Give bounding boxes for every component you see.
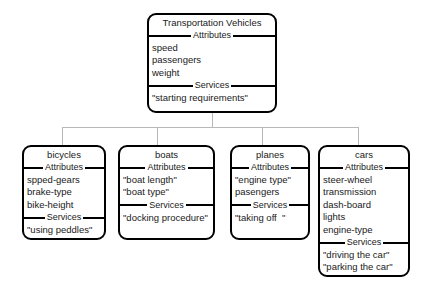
- node-title: boats: [120, 147, 213, 162]
- list-item: "taking off ": [235, 212, 308, 224]
- diagram-canvas: Transportation Vehicles Attributes speed…: [0, 0, 425, 291]
- divider-rule-left: [24, 217, 45, 219]
- node-transportation-vehicles[interactable]: Transportation Vehicles Attributes speed…: [147, 13, 277, 113]
- node-title: planes: [232, 147, 308, 162]
- attributes-list: speed passengers weight: [149, 41, 275, 79]
- connector-root-stem: [212, 113, 213, 128]
- attributes-list: "engine type" pasengers: [232, 173, 308, 199]
- connector-drop-planes: [262, 127, 263, 145]
- list-item: "driving the car": [323, 249, 408, 261]
- list-item: lights: [323, 211, 408, 223]
- attributes-label: Attributes: [191, 30, 233, 41]
- node-bicycles[interactable]: bicycles Attributes spped-gears brake-ty…: [22, 145, 106, 240]
- attributes-list: spped-gears brake-type bike-height: [24, 173, 104, 211]
- divider-rule-left: [24, 167, 43, 169]
- services-divider: Services: [320, 237, 408, 248]
- node-cars[interactable]: cars Attributes steer-wheel transmission…: [318, 145, 410, 277]
- divider-rule-right: [385, 167, 408, 169]
- divider-rule-right: [231, 85, 275, 87]
- list-item: "boat length": [123, 174, 213, 186]
- attributes-label: Attributes: [249, 162, 291, 173]
- services-divider: Services: [232, 200, 308, 211]
- divider-rule-right: [233, 35, 275, 37]
- attributes-divider: Attributes: [149, 30, 275, 41]
- divider-rule-right: [289, 204, 308, 206]
- services-label: Services: [147, 200, 186, 211]
- connector-horizontal-bus: [62, 127, 358, 128]
- attributes-divider: Attributes: [24, 162, 104, 173]
- services-list: "starting requirements": [149, 91, 275, 104]
- list-item: pasengers: [235, 186, 308, 198]
- list-item: "engine type": [235, 174, 308, 186]
- node-title: bicycles: [24, 147, 104, 162]
- list-item: "docking procedure": [123, 212, 213, 224]
- divider-rule-right: [188, 167, 213, 169]
- divider-rule-left: [320, 242, 345, 244]
- services-divider: Services: [149, 80, 275, 91]
- list-item: passengers: [152, 54, 275, 66]
- node-planes[interactable]: planes Attributes "engine type" pasenger…: [230, 145, 310, 240]
- attributes-label: Attributes: [145, 162, 187, 173]
- attributes-list: "boat length" "boat type": [120, 173, 213, 199]
- list-item: "stopping the car": [323, 274, 408, 277]
- divider-rule-left: [320, 167, 343, 169]
- list-item: dash-board: [323, 199, 408, 211]
- attributes-divider: Attributes: [232, 162, 308, 173]
- divider-rule-right: [383, 242, 408, 244]
- list-item: bike-height: [27, 199, 104, 211]
- divider-rule-left: [149, 85, 193, 87]
- list-item: weight: [152, 67, 275, 79]
- divider-rule-right: [83, 217, 104, 219]
- node-title: cars: [320, 147, 408, 162]
- node-title: Transportation Vehicles: [149, 15, 275, 30]
- attributes-divider: Attributes: [120, 162, 213, 173]
- divider-rule-left: [232, 167, 249, 169]
- attributes-list: steer-wheel transmission dash-board ligh…: [320, 173, 408, 236]
- divider-rule-right: [291, 167, 308, 169]
- list-item: transmission: [323, 186, 408, 198]
- divider-rule-right: [85, 167, 104, 169]
- connector-drop-cars: [358, 127, 359, 145]
- services-label: Services: [345, 237, 384, 248]
- connector-drop-bicycles: [62, 127, 63, 145]
- attributes-divider: Attributes: [320, 162, 408, 173]
- list-item: speed: [152, 42, 275, 54]
- services-label: Services: [193, 80, 232, 91]
- services-divider: Services: [24, 212, 104, 223]
- divider-rule-left: [120, 167, 145, 169]
- list-item: "starting requirements": [152, 92, 275, 104]
- list-item: spped-gears: [27, 174, 104, 186]
- list-item: "boat type": [123, 186, 213, 198]
- list-item: "using peddles": [27, 224, 104, 236]
- divider-rule-left: [232, 204, 251, 206]
- services-list: "docking procedure": [120, 211, 213, 224]
- services-label: Services: [251, 200, 290, 211]
- node-boats[interactable]: boats Attributes "boat length" "boat typ…: [118, 145, 215, 240]
- list-item: "parking the car": [323, 261, 408, 273]
- list-item: brake-type: [27, 186, 104, 198]
- services-list: "taking off ": [232, 211, 308, 224]
- services-list: "using peddles": [24, 223, 104, 236]
- divider-rule-left: [149, 35, 191, 37]
- services-divider: Services: [120, 200, 213, 211]
- attributes-label: Attributes: [343, 162, 385, 173]
- divider-rule-left: [120, 204, 147, 206]
- services-list: "driving the car" "parking the car" "sto…: [320, 248, 408, 277]
- attributes-label: Attributes: [43, 162, 85, 173]
- connector-drop-boats: [157, 127, 158, 145]
- list-item: engine-type: [323, 224, 408, 236]
- divider-rule-right: [186, 204, 213, 206]
- list-item: steer-wheel: [323, 174, 408, 186]
- services-label: Services: [45, 212, 84, 223]
